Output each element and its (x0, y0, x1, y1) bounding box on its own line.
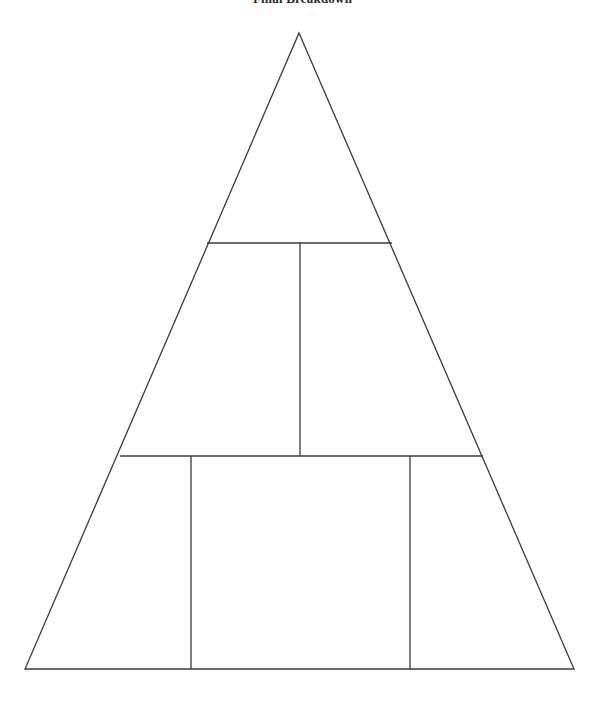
pyramid-diagram (0, 0, 605, 702)
